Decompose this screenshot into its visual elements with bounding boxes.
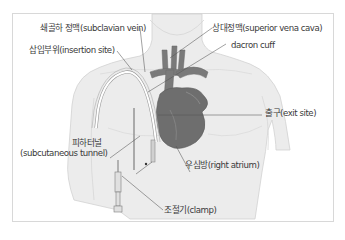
label-right-atrium: 우심방(right atrium) <box>185 160 259 170</box>
label-subcutaneous-tunnel-ko: 피하터널 <box>20 138 102 148</box>
exit-site-connector <box>151 140 155 162</box>
label-subclavian-vein: 쇄골하 정맥(subclavian vein) <box>40 23 146 33</box>
label-subcutaneous-tunnel: 피하터널 (subcutaneous tunnel) <box>20 138 102 158</box>
label-exit-site: 출구(exit site) <box>265 108 316 118</box>
label-superior-vena-cava: 상대정맥(superior vena cava) <box>212 23 322 33</box>
clamp-icon <box>114 172 122 212</box>
label-clamp: 조절기(clamp) <box>164 205 216 215</box>
label-insertion-site: 삽입부위(insertion site) <box>29 45 115 55</box>
label-subcutaneous-tunnel-en: (subcutaneous tunnel) <box>20 148 102 158</box>
marker-dot <box>145 163 147 165</box>
label-dacron-cuff: dacron cuff <box>231 40 275 50</box>
